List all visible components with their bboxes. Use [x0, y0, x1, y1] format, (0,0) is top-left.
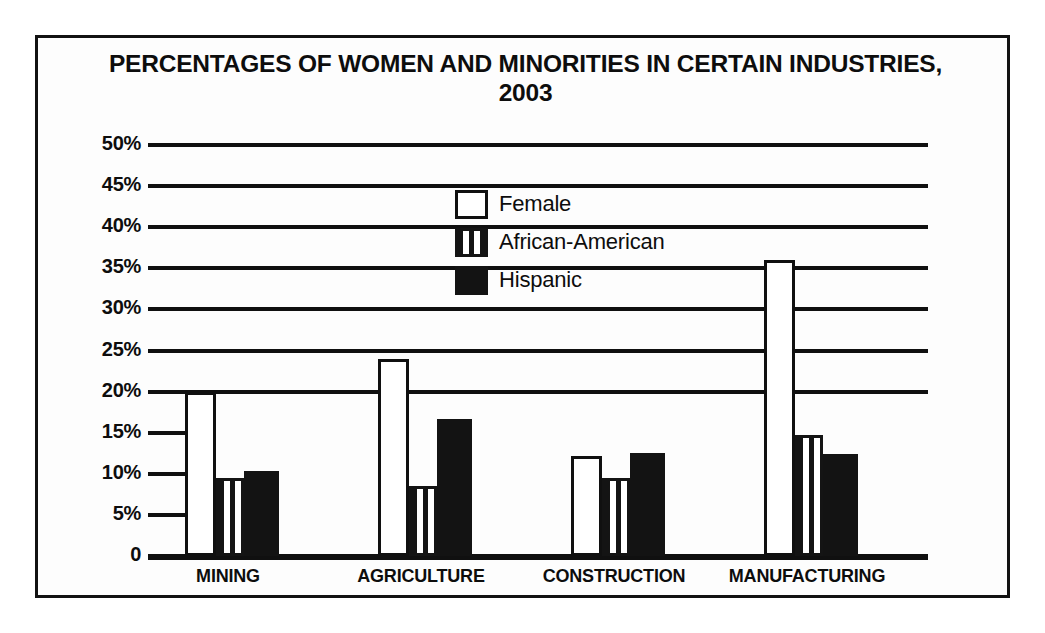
- bar-mining-female: [185, 392, 216, 556]
- bar-mining-african: [216, 478, 244, 556]
- legend-item-hispanic: Hispanic: [455, 262, 755, 298]
- bar-agriculture-hispanic: [437, 419, 472, 556]
- legend-label: Female: [499, 191, 571, 217]
- legend-swatch-african-icon: [455, 228, 488, 257]
- bar-agriculture-female: [378, 359, 409, 556]
- legend-label: Hispanic: [499, 267, 582, 293]
- legend-item-female: Female: [455, 186, 755, 222]
- legend-swatch-hispanic-icon: [455, 266, 488, 295]
- bar-construction-hispanic: [630, 453, 665, 556]
- bar-mining-hispanic: [244, 471, 279, 556]
- x-axis-label-manufacturing: MANUFACTURING: [697, 566, 917, 587]
- x-axis-label-construction: CONSTRUCTION: [504, 566, 724, 587]
- legend-label: African-American: [499, 229, 665, 255]
- legend-item-african: African-American: [455, 224, 755, 260]
- legend-swatch-female-icon: [455, 190, 488, 219]
- bar-construction-african: [602, 478, 630, 556]
- bar-manufacturing-female: [764, 260, 795, 556]
- bars-layer: [0, 0, 1045, 633]
- x-axis-label-agriculture: AGRICULTURE: [311, 566, 531, 587]
- bar-construction-female: [571, 456, 602, 556]
- x-axis-label-mining: MINING: [118, 566, 338, 587]
- chart-legend: FemaleAfrican-AmericanHispanic: [455, 186, 755, 300]
- bar-manufacturing-african: [795, 435, 823, 556]
- bar-manufacturing-hispanic: [823, 454, 858, 556]
- bar-agriculture-african: [409, 486, 437, 556]
